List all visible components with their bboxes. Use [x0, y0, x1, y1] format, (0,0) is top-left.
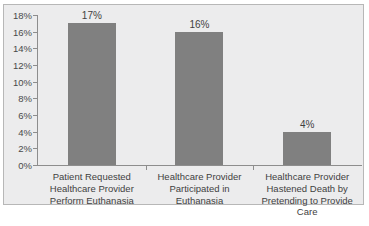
x-axis-category-label: Healthcare ProviderHastened Death byPret…: [253, 171, 361, 218]
category-divider-tick: [253, 166, 254, 170]
chart-frame: 18%16%14%12%10%8%6%4%2%0% 17%16%4% Patie…: [3, 4, 364, 205]
category-label-line: Participated in Euthanasia: [146, 183, 254, 207]
category-label-line: Healthcare Provider: [253, 171, 361, 183]
category-label-line: Perform Euthanasia: [38, 195, 146, 207]
x-axis-category-label: Healthcare ProviderParticipated in Eutha…: [146, 171, 254, 206]
bar[interactable]: [68, 23, 116, 165]
bar[interactable]: [283, 132, 331, 165]
category-label-line: Healthcare Provider: [146, 171, 254, 183]
category-label-line: Care: [253, 206, 361, 218]
bar-slot: 16%: [146, 15, 254, 165]
y-axis-tick-label: 18%: [4, 11, 32, 20]
x-axis-category-label: Patient RequestedHealthcare ProviderPerf…: [38, 171, 146, 206]
y-axis-tick-label: 12%: [4, 61, 32, 70]
bar-value-label: 16%: [189, 19, 209, 30]
y-axis-tick-label: 2%: [4, 144, 32, 153]
y-axis-tick-label: 8%: [4, 94, 32, 103]
category-label-line: Healthcare Provider: [38, 183, 146, 195]
bar[interactable]: [175, 32, 223, 165]
plot-area: 17%16%4%: [38, 15, 361, 165]
y-axis-tick-label: 16%: [4, 27, 32, 36]
category-label-line: Patient Requested: [38, 171, 146, 183]
y-axis-tick-label: 0%: [4, 161, 32, 170]
bar-slot: 4%: [253, 15, 361, 165]
y-axis-tick-label: 4%: [4, 127, 32, 136]
bar-slot: 17%: [38, 15, 146, 165]
bar-value-label: 4%: [300, 119, 314, 130]
x-axis-line: [37, 165, 362, 166]
y-axis: 18%16%14%12%10%8%6%4%2%0%: [4, 5, 32, 171]
x-axis-category-labels: Patient RequestedHealthcare ProviderPerf…: [38, 171, 361, 205]
y-axis-tick-label: 10%: [4, 77, 32, 86]
category-divider-tick: [146, 166, 147, 170]
y-axis-tick-label: 6%: [4, 111, 32, 120]
category-label-line: Hastened Death by: [253, 183, 361, 195]
y-axis-tick-label: 14%: [4, 44, 32, 53]
bar-value-label: 17%: [82, 10, 102, 21]
category-label-line: Pretending to Provide: [253, 195, 361, 207]
